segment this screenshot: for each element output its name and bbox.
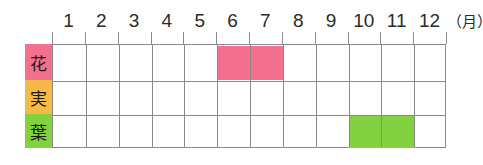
grid-column-line xyxy=(184,45,185,147)
month-tick-label-2: 2 xyxy=(85,8,118,34)
grid-column-line xyxy=(283,45,284,147)
axis-tick xyxy=(348,32,349,44)
axis-tick xyxy=(446,32,447,44)
axis-tick xyxy=(183,32,184,44)
grid-column-line xyxy=(316,45,317,147)
month-tick-label-4: 4 xyxy=(150,8,183,34)
grid-column-line xyxy=(119,45,120,147)
axis-unit-label: （月） xyxy=(447,8,483,34)
axis-tick xyxy=(380,32,381,44)
grid-column-line xyxy=(86,45,87,147)
month-tick-label-11: 11 xyxy=(380,8,413,34)
grid-column-line xyxy=(152,45,153,147)
axis-tick xyxy=(216,32,217,44)
month-tick-label-1: 1 xyxy=(52,8,85,34)
month-tick-label-9: 9 xyxy=(315,8,348,34)
month-tick-label-6: 6 xyxy=(216,8,249,34)
month-tick-label-10: 10 xyxy=(347,8,380,34)
axis-tick xyxy=(282,32,283,44)
axis-tick xyxy=(52,32,53,44)
axis-tick xyxy=(118,32,119,44)
grid-column-line xyxy=(414,45,415,147)
month-tick-label-12: 12 xyxy=(413,8,446,34)
month-axis-header: 1 2 3 4 5 6 7 8 9 10 11 12 xyxy=(52,8,446,34)
grid-row-line xyxy=(53,81,445,82)
period-bar-葉 xyxy=(349,116,415,148)
axis-tick xyxy=(413,32,414,44)
calendar-grid xyxy=(52,44,446,148)
grid-column-line xyxy=(381,45,382,147)
axis-tick xyxy=(249,32,250,44)
row-label-fruit: 実 xyxy=(25,80,52,114)
axis-tick xyxy=(315,32,316,44)
row-label-flower: 花 xyxy=(25,44,52,80)
month-tick-label-5: 5 xyxy=(183,8,216,34)
grid-column-line xyxy=(217,45,218,147)
row-label-column: 花 実 葉 xyxy=(25,44,52,148)
axis-tick xyxy=(85,32,86,44)
axis-tick xyxy=(151,32,152,44)
row-label-leaf: 葉 xyxy=(25,114,52,148)
month-tick-label-8: 8 xyxy=(282,8,315,34)
month-tick-label-3: 3 xyxy=(118,8,151,34)
seasonal-calendar-chart: 1 2 3 4 5 6 7 8 9 10 11 12 （月） 花 実 葉 xyxy=(0,0,483,165)
month-tick-label-7: 7 xyxy=(249,8,282,34)
grid-column-line xyxy=(250,45,251,147)
grid-column-line xyxy=(349,45,350,147)
axis-tick-marks xyxy=(52,32,447,44)
grid-row-line xyxy=(53,115,445,116)
